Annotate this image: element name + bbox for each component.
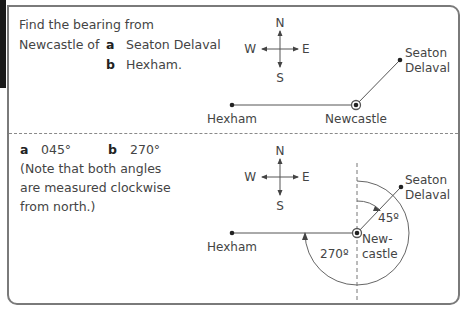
hexham-point-bottom xyxy=(230,231,235,236)
seaton-label-line1: Seaton xyxy=(405,46,447,60)
compass-w-label: W xyxy=(244,42,256,56)
seaton-delaval-point xyxy=(398,58,403,63)
compass-n-label-bottom: N xyxy=(276,144,285,158)
newcastle-label-line1-bottom: New- xyxy=(362,232,393,246)
hexham-label: Hexham xyxy=(207,112,257,126)
diagram-canvas: N S W E Seaton Delaval Hexham Newcastle … xyxy=(0,0,465,311)
newcastle-label-line2-bottom: castle xyxy=(362,247,398,261)
compass-rose-bottom: N S W E xyxy=(244,144,309,213)
angle-45-label: 45º xyxy=(378,211,399,225)
seaton-delaval-point-bottom xyxy=(399,185,404,190)
seaton-label-line1-bottom: Seaton xyxy=(405,173,447,187)
compass-e-label-bottom: E xyxy=(302,170,310,184)
newcastle-point-bottom xyxy=(355,231,360,236)
compass-e-label: E xyxy=(302,42,310,56)
newcastle-label: Newcastle xyxy=(325,112,387,126)
bearing-diagram-bottom: Seaton Delaval Hexham New- castle 45º 27… xyxy=(207,163,450,303)
seaton-label-line2-bottom: Delaval xyxy=(405,188,450,202)
hexham-point xyxy=(230,103,235,108)
compass-s-label: S xyxy=(276,71,284,85)
route-map-top: Seaton Delaval Hexham Newcastle xyxy=(207,46,450,126)
newcastle-point xyxy=(354,103,359,108)
angle-270-label: 270º xyxy=(320,247,349,261)
compass-rose-top: N S W E xyxy=(244,16,309,85)
hexham-label-bottom: Hexham xyxy=(207,240,257,254)
compass-n-label: N xyxy=(276,16,285,30)
compass-s-label-bottom: S xyxy=(276,199,284,213)
compass-w-label-bottom: W xyxy=(244,170,256,184)
seaton-label-line2: Delaval xyxy=(405,61,450,75)
